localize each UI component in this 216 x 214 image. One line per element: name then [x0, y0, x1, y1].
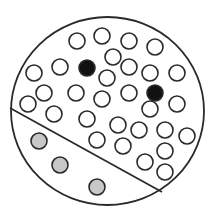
hollow-particle [157, 164, 173, 180]
hollow-particle [157, 143, 173, 159]
hollow-particle [26, 65, 42, 81]
hollow-particle [121, 85, 137, 101]
hollow-particle [137, 154, 153, 170]
hollow-particle [105, 49, 121, 65]
hollow-particle [79, 111, 95, 127]
hollow-particle [121, 33, 137, 49]
hollow-particle [52, 59, 68, 75]
hollow-particle [99, 70, 115, 86]
dark-particle [79, 60, 95, 76]
hollow-particle [110, 117, 126, 133]
hollow-particle [36, 85, 52, 101]
hollow-particle [142, 101, 158, 117]
hollow-particle [94, 91, 110, 107]
hollow-particle [68, 85, 84, 101]
diagram-stage [0, 0, 216, 214]
hollow-particle [179, 128, 195, 144]
gray-particle [52, 157, 68, 173]
hollow-particle [94, 28, 110, 44]
hollow-particle [121, 59, 137, 75]
hollow-particle [169, 96, 185, 112]
hollow-particle [46, 106, 62, 122]
hollow-particle [169, 65, 185, 81]
hollow-particle [131, 122, 147, 138]
hollow-particle [89, 132, 105, 148]
hollow-particle [142, 65, 158, 81]
hollow-particles [20, 28, 195, 180]
hollow-particle [69, 33, 85, 49]
hollow-particle [115, 138, 131, 154]
particle-diagram [0, 0, 216, 214]
gray-particle [89, 179, 105, 195]
gray-particle [31, 133, 47, 149]
hollow-particle [147, 39, 163, 55]
dark-particle [147, 85, 163, 101]
hollow-particle [20, 96, 36, 112]
hollow-particle [157, 122, 173, 138]
